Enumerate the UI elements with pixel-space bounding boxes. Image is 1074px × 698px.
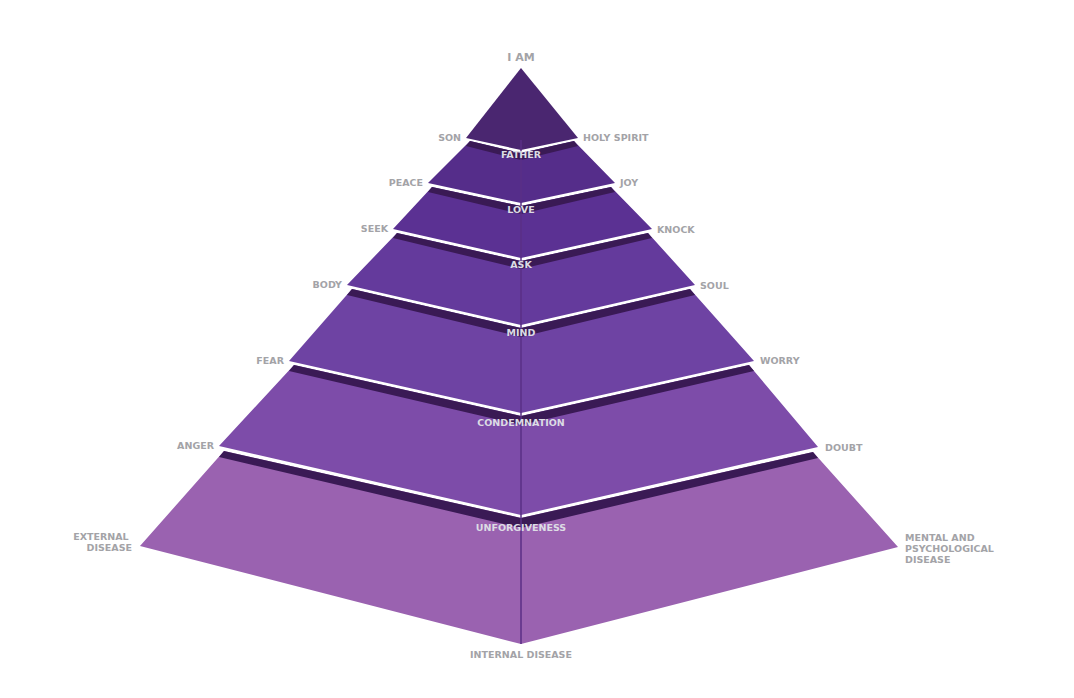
left-label-external-disease: EXTERNAL DISEASE bbox=[73, 531, 132, 553]
center-label-ask: ASK bbox=[510, 259, 532, 270]
left-label-fear: FEAR bbox=[256, 355, 284, 366]
left-label-anger: ANGER bbox=[177, 440, 215, 451]
left-label-peace: PEACE bbox=[389, 177, 423, 188]
center-label-father: FATHER bbox=[501, 149, 542, 160]
center-label-mind: MIND bbox=[507, 327, 536, 338]
right-label-doubt: DOUBT bbox=[825, 442, 863, 453]
left-label-seek: SEEK bbox=[361, 223, 389, 234]
right-label-knock: KNOCK bbox=[657, 224, 695, 235]
right-label-holy-spirit: HOLY SPIRIT bbox=[583, 132, 649, 143]
left-label-body: BODY bbox=[313, 279, 343, 290]
pyramid-diagram: I AM FATHER LOVE ASK MIND CONDEMNATION U… bbox=[0, 0, 1074, 698]
center-label-condemnation: CONDEMNATION bbox=[477, 417, 564, 428]
right-label-mental-disease: MENTAL AND PSYCHOLOGICAL DISEASE bbox=[905, 532, 997, 565]
tier-apex bbox=[466, 68, 578, 150]
right-label-joy: JOY bbox=[619, 177, 638, 188]
apex-label: I AM bbox=[507, 51, 534, 64]
right-label-soul: SOUL bbox=[700, 280, 729, 291]
pyramid-svg: I AM FATHER LOVE ASK MIND CONDEMNATION U… bbox=[0, 0, 1074, 698]
center-label-unforgiveness: UNFORGIVENESS bbox=[476, 522, 567, 533]
right-label-worry: WORRY bbox=[760, 355, 800, 366]
left-label-son: SON bbox=[438, 132, 461, 143]
center-label-love: LOVE bbox=[507, 204, 534, 215]
bottom-label: INTERNAL DISEASE bbox=[470, 649, 572, 660]
